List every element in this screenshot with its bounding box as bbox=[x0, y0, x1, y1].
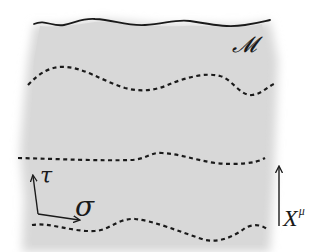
sigma-label: σ bbox=[75, 193, 94, 221]
worldsheet-diagram: 𝓜 τ σ Xμ bbox=[0, 0, 325, 252]
tau-label: τ bbox=[40, 165, 52, 187]
target-space-label-base: X bbox=[283, 205, 298, 231]
target-space-label: Xμ bbox=[283, 205, 305, 230]
diagram-svg bbox=[0, 0, 325, 252]
target-space-label-index: μ bbox=[299, 204, 305, 218]
manifold-label: 𝓜 bbox=[232, 34, 257, 56]
